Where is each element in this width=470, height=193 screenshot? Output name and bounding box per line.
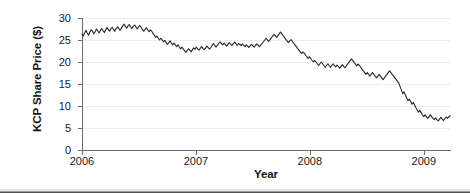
y-tick-label: 5 [49,123,71,134]
y-tick-label: 15 [49,79,71,90]
x-tick-label: 2006 [59,156,105,167]
scan-edge-dark [0,190,470,193]
x-tick-label: 2009 [401,156,447,167]
series-line-svg [82,18,450,150]
y-axis-title: KCP Share Price ($) [30,4,44,154]
y-tick-label: 30 [49,13,71,24]
chart-figure: KCP Share Price ($) Year 051015202530200… [0,0,470,193]
y-tick-label: 25 [49,35,71,46]
y-tick-label: 10 [49,101,71,112]
x-axis-spine [82,150,451,151]
y-tick-mark [78,84,82,85]
y-tick-mark [78,62,82,63]
y-tick-mark [78,40,82,41]
y-tick-label: 20 [49,57,71,68]
y-tick-mark [78,106,82,107]
y-tick-mark [78,128,82,129]
y-tick-mark [78,18,82,19]
series-line-kcp-share-price [82,24,450,121]
x-tick-label: 2007 [173,156,219,167]
y-tick-label: 0 [49,145,71,156]
x-axis-title: Year [82,168,450,180]
x-tick-label: 2008 [287,156,333,167]
